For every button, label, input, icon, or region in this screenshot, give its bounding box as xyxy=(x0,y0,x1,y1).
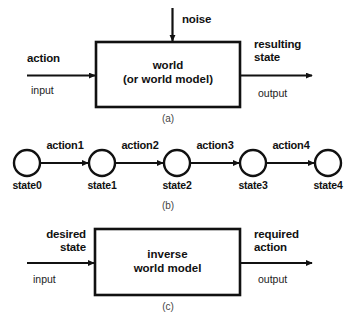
output-label-a: output xyxy=(258,88,287,100)
panel-c-tag: (c) xyxy=(138,301,198,312)
noise-label: noise xyxy=(182,13,211,26)
state-node-2 xyxy=(164,150,190,176)
action-label: action xyxy=(27,52,60,65)
node-label-state4: state4 xyxy=(302,180,354,192)
node-label-state2: state2 xyxy=(151,180,203,192)
panel-a-tag: (a) xyxy=(138,113,198,124)
resulting-state-label-line1: resulting xyxy=(254,38,301,51)
state-node-0 xyxy=(14,150,40,176)
world-box-text-line1: world xyxy=(96,58,240,72)
state-node-4 xyxy=(315,150,341,176)
node-label-state3: state3 xyxy=(227,180,279,192)
inverse-box-text-line2: world model xyxy=(95,261,240,275)
input-label-c: input xyxy=(33,274,56,286)
state-node-1 xyxy=(89,150,115,176)
world-box-text-line2: (or world model) xyxy=(96,72,240,86)
required-action-label-line2: action xyxy=(254,241,287,254)
desired-state-label-line1: desired xyxy=(20,228,86,241)
input-label-a: input xyxy=(31,85,54,97)
state-node-3 xyxy=(240,150,266,176)
desired-state-label-line2: state xyxy=(20,241,86,254)
figure-root: noise action input resulting state outpu… xyxy=(0,0,354,323)
edge-label-action1: action1 xyxy=(38,139,92,151)
output-label-c: output xyxy=(258,274,287,286)
resulting-state-label-line2: state xyxy=(254,51,280,64)
edge-label-action2: action2 xyxy=(113,139,167,151)
panel-b-tag: (b) xyxy=(138,200,198,211)
node-label-state1: state1 xyxy=(76,180,128,192)
node-label-state0: state0 xyxy=(1,180,53,192)
required-action-label-line1: required xyxy=(254,228,299,241)
edge-label-action3: action3 xyxy=(188,139,242,151)
inverse-box-text-line1: inverse xyxy=(95,247,240,261)
edge-label-action4: action4 xyxy=(264,139,318,151)
